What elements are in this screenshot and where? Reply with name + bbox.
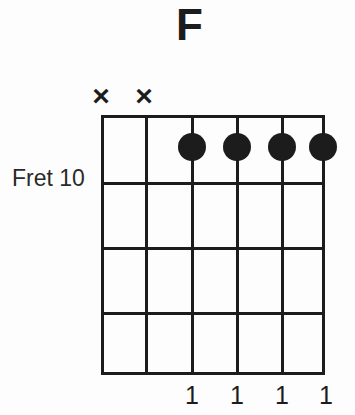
finger-dot-string-5 [268,133,296,161]
fretboard-grid [101,115,325,375]
finger-dot-string-6 [309,133,337,161]
mute-marker-string-2: × [129,81,159,111]
finger-number-string-6: 1 [314,381,338,409]
mute-marker-string-1: × [86,81,116,111]
fret-line-3 [101,312,325,315]
fret-line-1 [101,182,325,185]
fret-line-4 [101,372,325,375]
fret-position-label: Fret 10 [12,165,96,191]
fret-line-2 [101,247,325,250]
string-line-2 [145,115,148,375]
finger-number-string-4: 1 [225,381,249,409]
finger-number-string-5: 1 [270,381,294,409]
string-line-1 [101,115,104,375]
chord-name-title: F [12,2,355,48]
nut-line [101,115,325,118]
chord-diagram: F Fret 10 × × 1 1 1 1 [0,0,355,415]
finger-number-string-3: 1 [180,381,204,409]
finger-dot-string-4 [223,133,251,161]
finger-dot-string-3 [178,133,206,161]
